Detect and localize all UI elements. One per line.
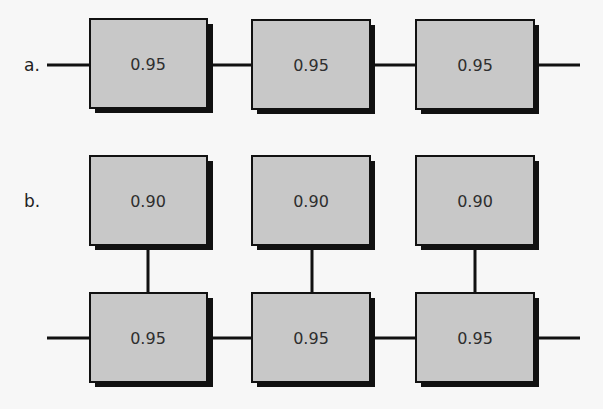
component-a-3: 0.95 — [416, 20, 539, 114]
main-component-1: 0.95 — [90, 293, 213, 387]
reliability-value: 0.90 — [130, 192, 166, 211]
component-a-2: 0.95 — [252, 20, 375, 114]
backup-component-3: 0.90 — [416, 156, 539, 250]
backup-component-2: 0.90 — [252, 156, 375, 250]
reliability-value: 0.95 — [457, 329, 493, 348]
component-a-1: 0.95 — [90, 19, 213, 113]
reliability-value: 0.95 — [293, 56, 329, 75]
diagram-part-b: b. 0.90 0.90 0.90 0.95 — [24, 156, 580, 387]
backup-component-1: 0.90 — [90, 156, 213, 250]
reliability-value: 0.95 — [457, 56, 493, 75]
reliability-diagram: a. 0.95 0.95 0.95 b. 0.90 — [0, 0, 603, 409]
part-b-label: b. — [24, 191, 40, 211]
diagram-part-a: a. 0.95 0.95 0.95 — [24, 19, 580, 114]
reliability-value: 0.90 — [457, 192, 493, 211]
main-component-3: 0.95 — [416, 293, 539, 387]
reliability-value: 0.95 — [130, 55, 166, 74]
reliability-value: 0.95 — [293, 329, 329, 348]
reliability-value: 0.90 — [293, 192, 329, 211]
reliability-value: 0.95 — [130, 329, 166, 348]
main-component-2: 0.95 — [252, 293, 375, 387]
part-a-label: a. — [24, 55, 40, 75]
